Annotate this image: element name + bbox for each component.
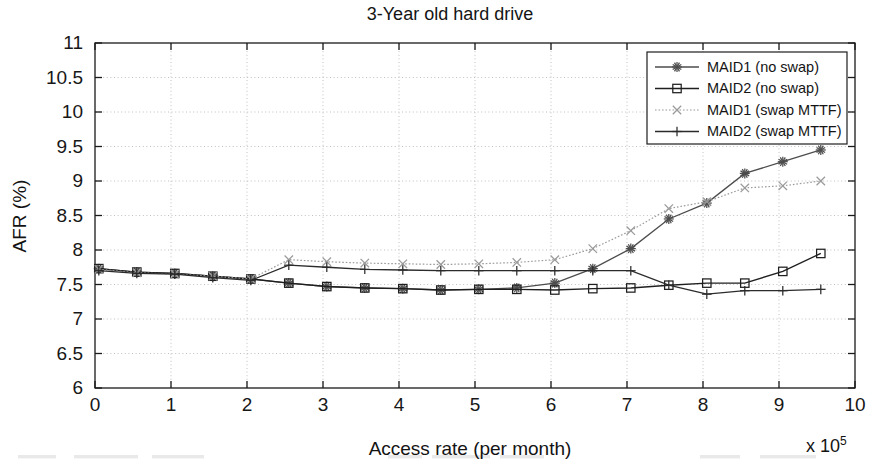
x-tick-labels: 012345678910 <box>90 394 866 415</box>
x-tick-label: 9 <box>774 394 785 415</box>
asterisk-marker <box>512 283 522 293</box>
y-tick-labels: 66.577.588.599.51010.511 <box>46 32 83 398</box>
y-tick-label: 8.5 <box>57 205 83 226</box>
x-marker <box>665 204 673 212</box>
x-tick-label: 0 <box>90 394 101 415</box>
series-0 <box>94 145 826 295</box>
series-line <box>99 181 821 279</box>
y-axis-title: AFR (%) <box>9 180 30 253</box>
y-tick-label: 7.5 <box>57 274 83 295</box>
y-tick-label: 7 <box>72 308 83 329</box>
asterisk-marker <box>816 145 826 155</box>
series-1 <box>95 249 825 294</box>
x-tick-label: 3 <box>318 394 329 415</box>
x-tick-label: 10 <box>844 394 865 415</box>
x-axis-title: Access rate (per month) <box>369 438 572 459</box>
x-tick-label: 7 <box>622 394 633 415</box>
y-tick-label: 8 <box>72 239 83 260</box>
chart-title: 3-Year old hard drive <box>367 4 533 24</box>
y-tick-label: 10.5 <box>46 67 83 88</box>
plus-marker <box>664 280 674 290</box>
y-tick-label: 9.5 <box>57 136 83 157</box>
plus-marker <box>284 260 294 270</box>
x-tick-label: 8 <box>698 394 709 415</box>
x-tick-label: 1 <box>166 394 177 415</box>
asterisk-marker <box>550 278 560 288</box>
x-tick-label: 5 <box>470 394 481 415</box>
x-tick-label: 2 <box>242 394 253 415</box>
x-marker <box>551 255 559 263</box>
data-series-layer <box>94 145 826 299</box>
legend-label: MAID1 (no swap) <box>707 59 819 75</box>
x-tick-label: 6 <box>546 394 557 415</box>
series-3 <box>94 260 826 299</box>
y-tick-label: 11 <box>63 32 83 53</box>
chart-figure: 3-Year old hard drive 66.577.588.599.510… <box>0 0 882 471</box>
x-axis-multiplier: x 105 <box>806 434 847 456</box>
asterisk-marker <box>778 157 788 167</box>
y-tick-label: 10 <box>62 101 83 122</box>
x-axis-multiplier-base: x 10 <box>806 436 840 456</box>
y-tick-label: 9 <box>72 170 83 191</box>
legend-label: MAID1 (swap MTTF) <box>707 102 842 118</box>
plus-marker <box>778 286 788 296</box>
legend-label: MAID2 (swap MTTF) <box>707 123 842 139</box>
series-2 <box>95 177 825 283</box>
x-tick-label: 4 <box>394 394 405 415</box>
x-marker <box>589 244 597 252</box>
plus-marker <box>816 285 826 295</box>
y-tick-label: 6.5 <box>57 343 83 364</box>
legend-label: MAID2 (no swap) <box>707 80 819 96</box>
legend: MAID1 (no swap)MAID2 (no swap)MAID1 (swa… <box>647 52 847 144</box>
plus-marker <box>512 266 522 276</box>
series-line <box>99 150 821 290</box>
x-marker <box>627 226 635 234</box>
plus-marker <box>702 289 712 299</box>
x-axis-multiplier-exponent: 5 <box>840 434 847 448</box>
y-tick-label: 6 <box>72 377 83 398</box>
